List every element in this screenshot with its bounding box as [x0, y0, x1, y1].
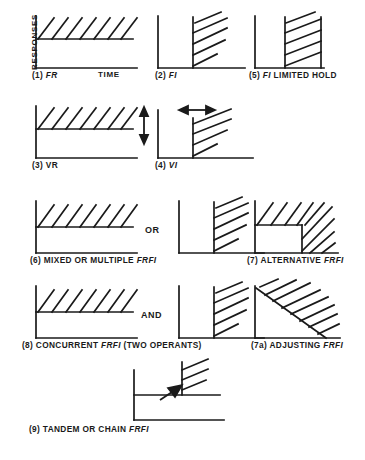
panel-tandem-or-chain	[120, 368, 240, 424]
caption-flh-number: (5)	[249, 70, 260, 80]
caption-vi-number: (4)	[155, 160, 166, 170]
caption-mixed-or-multiple: (6) MIXED OR MULTIPLE FRFI	[30, 255, 157, 265]
cumulative-record-figure: RESPONSES TIME (1) FR	[0, 0, 365, 460]
panel-mixed-left	[33, 199, 143, 255]
caption-adj-code: FRFI	[323, 340, 343, 350]
panel-fi-limited-hold	[252, 14, 357, 70]
caption-fi-name: FI	[169, 70, 177, 80]
caption-mix-code: FRFI	[137, 255, 157, 265]
caption-fi-limited-hold: (5) FI LIMITED HOLD	[249, 70, 337, 80]
caption-flh-name: FI	[263, 70, 271, 80]
panel-adjusting	[252, 284, 357, 340]
caption-mix-number: (6)	[30, 255, 41, 265]
caption-conc-number: (8)	[22, 340, 33, 350]
panel-vi	[155, 104, 270, 160]
caption-alt-code: FRFI	[324, 255, 344, 265]
caption-alt-number: (7)	[247, 255, 258, 265]
caption-fr-number: (1)	[32, 70, 43, 80]
panel-vr	[33, 104, 153, 160]
panel-alternative	[252, 199, 357, 255]
caption-vi-name: VI	[169, 160, 178, 170]
caption-vr-number: (3)	[32, 160, 43, 170]
caption-tan-name: TANDEM OR CHAIN	[43, 424, 126, 434]
x-axis-label-time: TIME	[98, 70, 120, 79]
caption-fr: (1) FR	[32, 70, 58, 80]
panel-fi	[155, 14, 260, 70]
panel-concurrent-left	[33, 284, 143, 340]
caption-alternative: (7) ALTERNATIVE FRFI	[247, 255, 344, 265]
vi-variability-arrow	[179, 106, 215, 114]
caption-fr-name: FR	[46, 70, 58, 80]
transition-arrow-icon	[160, 385, 182, 400]
caption-tan-code: FRFI	[129, 424, 149, 434]
caption-concurrent: (8) CONCURRENT FRFI (TWO OPERANTS)	[22, 340, 202, 350]
caption-vr: (3) VR	[32, 160, 58, 170]
caption-conc-name: CONCURRENT	[36, 340, 99, 350]
caption-adj-number: (7a)	[251, 340, 267, 350]
caption-conc-code: FRFI	[101, 340, 121, 350]
caption-vr-name: VR	[46, 160, 58, 170]
caption-alt-name: ALTERNATIVE	[261, 255, 322, 265]
caption-flh-rest: LIMITED HOLD	[271, 70, 337, 80]
caption-adjusting: (7a) ADJUSTING FRFI	[251, 340, 343, 350]
caption-tandem-or-chain: (9) TANDEM OR CHAIN FRFI	[29, 424, 149, 434]
caption-mix-name: MIXED OR MULTIPLE	[44, 255, 134, 265]
caption-fi: (2) FI	[155, 70, 177, 80]
panel-fr	[33, 14, 143, 70]
caption-conc-rest: (TWO OPERANTS)	[124, 340, 202, 350]
connector-and: AND	[141, 310, 162, 320]
connector-or: OR	[145, 225, 160, 235]
caption-fi-number: (2)	[155, 70, 166, 80]
caption-vi: (4) VI	[155, 160, 177, 170]
caption-tan-number: (9)	[29, 424, 40, 434]
caption-adj-name: ADJUSTING	[270, 340, 321, 350]
vr-variability-arrow	[140, 107, 148, 144]
